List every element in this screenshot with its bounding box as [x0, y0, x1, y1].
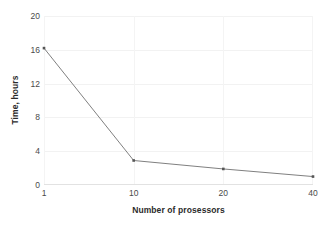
- y-axis-tick-label: 20: [22, 11, 40, 21]
- data-point-marker: [312, 175, 315, 178]
- y-axis-tick-labels: 048121620: [22, 0, 40, 231]
- data-series-plot: [44, 16, 313, 185]
- data-point-marker: [43, 47, 46, 50]
- x-axis-tick-label: 20: [219, 188, 228, 198]
- x-axis-tick-label: 10: [129, 188, 138, 198]
- data-point-marker: [132, 159, 135, 162]
- data-point-marker: [222, 168, 225, 171]
- x-axis-tick-label: 40: [308, 188, 317, 198]
- y-axis-tick-label: 12: [22, 79, 40, 89]
- y-axis-tick-label: 16: [22, 45, 40, 55]
- y-axis-tick-label: 4: [22, 146, 40, 156]
- x-axis-title: Number of prosessors: [44, 205, 313, 215]
- series-line: [44, 48, 313, 176]
- x-axis-tick-labels: 1102040: [44, 188, 313, 202]
- x-axis-tick-label: 1: [42, 188, 47, 198]
- y-axis-title-text: Time, hours: [10, 75, 20, 124]
- line-chart-figure: Time, hours 048121620 1102040 Number of …: [0, 0, 328, 231]
- y-axis-title: Time, hours: [8, 55, 22, 145]
- y-axis-tick-label: 8: [22, 112, 40, 122]
- series-markers: [43, 47, 315, 178]
- y-axis-tick-label: 0: [22, 180, 40, 190]
- plot-area: [44, 16, 313, 185]
